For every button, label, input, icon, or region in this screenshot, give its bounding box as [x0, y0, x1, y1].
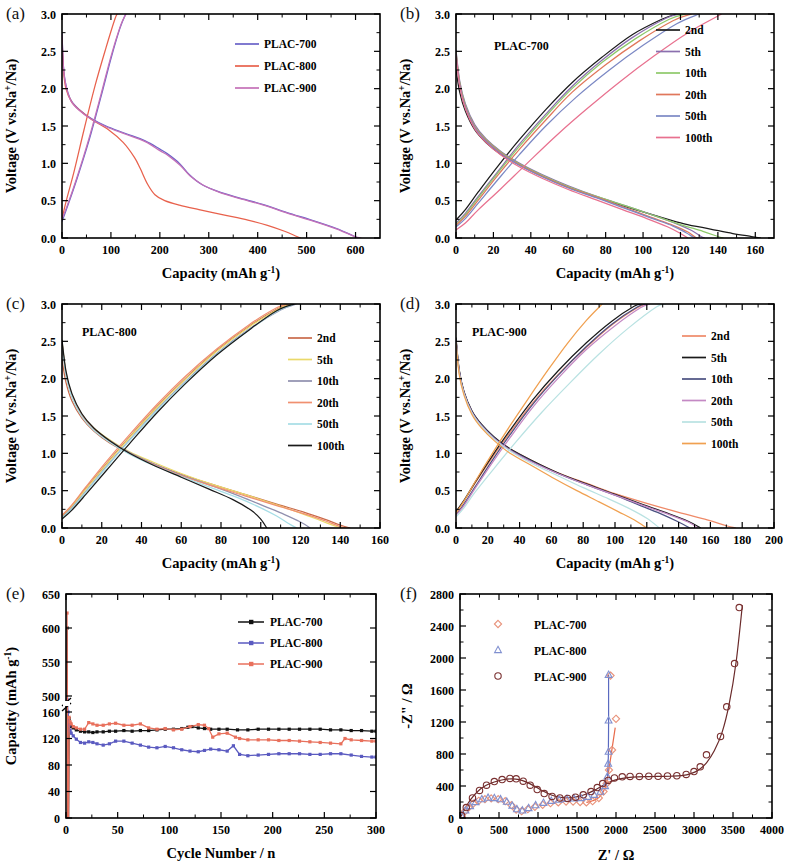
series-marker-PLAC-900: [83, 728, 86, 731]
fit-line-PLAC-900-fit: [461, 605, 743, 817]
ytick-label: 2400: [430, 620, 454, 634]
y-axis-title: Voltage (V vs.Na+/Na): [397, 348, 414, 483]
legend-marker-PLAC-800: [249, 641, 253, 645]
panel-f: 0500100015002000250030003500400004008001…: [394, 580, 788, 868]
xtick-label: 60: [562, 243, 574, 257]
xtick-label: 1500: [565, 823, 589, 837]
series-marker-PLAC-800: [308, 753, 311, 756]
curve-PLAC-800-charge: [62, 14, 117, 219]
legend-label-PLAC-800: PLAC-800: [534, 645, 587, 657]
curve-50th-charge: [456, 14, 699, 227]
series-marker-PLAC-900: [203, 724, 206, 727]
x-axis-title: Capacity (mAh g-1): [556, 265, 674, 282]
series-marker-PLAC-900: [217, 732, 220, 735]
legend-label-PLAC-700: PLAC-700: [534, 619, 587, 631]
ytick-label: 0.5: [435, 194, 450, 208]
curve-20th-discharge: [456, 341, 698, 528]
legend-label-PLAC-800: PLAC-800: [270, 637, 323, 649]
series-marker-PLAC-800: [139, 744, 142, 747]
curves-group: [62, 14, 361, 238]
series-marker-PLAC-700: [91, 731, 94, 734]
series-marker-PLAC-700: [350, 729, 353, 732]
ytick-label: 1.5: [41, 120, 56, 134]
xtick-label: 2000: [604, 823, 628, 837]
series-marker-PLAC-900: [102, 724, 105, 727]
series-marker-PLAC-900: [95, 724, 98, 727]
ytick-label: 2.0: [435, 82, 450, 96]
curve-5th-discharge: [62, 341, 344, 528]
panel-d: 0204060801001201401601802000.00.51.01.52…: [394, 290, 788, 579]
legend-label-2nd: 2nd: [685, 24, 704, 36]
series-marker-PLAC-800: [217, 748, 220, 751]
data-point-PLAC-900: [703, 752, 709, 758]
curve-100th-discharge: [456, 343, 647, 528]
series-marker-PLAC-700: [329, 728, 332, 731]
xtick-label: 150: [212, 823, 230, 837]
ytick-label: 1.5: [41, 410, 56, 424]
series-marker-PLAC-900: [180, 728, 183, 731]
series-marker-PLAC-900: [319, 741, 322, 744]
legend-label-10th: 10th: [685, 67, 707, 79]
x-axis-title: Capacity (mAh g-1): [162, 555, 280, 572]
panel-letter: (e): [6, 584, 25, 603]
legend-label-2nd: 2nd: [711, 330, 730, 342]
xtick-label: 0: [457, 823, 463, 837]
ytick-label: 550: [42, 656, 60, 670]
series-marker-PLAC-700: [122, 729, 125, 732]
series-marker-PLAC-900: [122, 724, 125, 727]
xtick-label: 160: [371, 533, 389, 547]
ytick-label: 1.5: [435, 120, 450, 134]
series-marker-PLAC-700: [246, 728, 249, 731]
legend-marker-PLAC-900: [495, 673, 501, 679]
series-marker-PLAC-900: [246, 738, 249, 741]
xtick-label: 40: [136, 533, 148, 547]
series-marker-PLAC-700: [139, 729, 142, 732]
data-point-PLAC-900: [731, 660, 737, 666]
ytick-label: 1.0: [435, 447, 450, 461]
panel-inline-title: PLAC-900: [472, 325, 527, 339]
panel-a: 01002003004005006000.00.51.01.52.02.53.0…: [0, 0, 394, 289]
xtick-label: 500: [490, 823, 508, 837]
series-marker-PLAC-800: [95, 742, 98, 745]
panel-inline-title: PLAC-700: [494, 39, 549, 53]
series-marker-PLAC-800: [102, 744, 105, 747]
legend-label-5th: 5th: [711, 352, 728, 364]
series-marker-PLAC-800: [180, 748, 183, 751]
nyquist-group: [458, 604, 742, 820]
legend-label-5th: 5th: [317, 354, 334, 366]
ytick-label: 1200: [430, 716, 454, 730]
xtick-label: 80: [577, 533, 589, 547]
axis-break-gap: [63, 701, 70, 706]
data-point-PLAC-700: [612, 715, 619, 722]
series-marker-PLAC-800: [131, 742, 134, 745]
legend-label-PLAC-700: PLAC-700: [264, 38, 317, 50]
ytick-label: 2.5: [435, 335, 450, 349]
series-marker-PLAC-900: [108, 722, 111, 725]
ytick-label: 1600: [430, 684, 454, 698]
xtick-label: 80: [215, 533, 227, 547]
series-marker-PLAC-900: [360, 739, 363, 742]
series-marker-PLAC-800: [238, 753, 241, 756]
y-axis-title: Capacity (mAh g-1): [3, 647, 20, 765]
curve-5th-charge: [456, 14, 680, 223]
series-marker-PLAC-700: [114, 730, 117, 733]
xtick-label: 40: [514, 533, 526, 547]
x-axis-title: Z' / Ω: [598, 847, 635, 863]
ytick-label: 3.0: [41, 8, 56, 22]
series-marker-PLAC-700: [257, 728, 260, 731]
x-axis-title-text: Capacity (mAh g-1): [162, 555, 280, 572]
ytick-label: 0.0: [435, 522, 450, 536]
ytick-label: 0.0: [41, 522, 56, 536]
series-marker-PLAC-800: [83, 742, 86, 745]
series-marker-PLAC-800: [319, 753, 322, 756]
y-axis-title: Voltage (V vs.Na+/Na): [397, 58, 414, 193]
data-point-PLAC-900: [736, 604, 742, 610]
figure-root: 01002003004005006000.00.51.01.52.02.53.0…: [0, 0, 788, 868]
series-marker-PLAC-900: [188, 725, 191, 728]
series-marker-PLAC-700: [131, 730, 134, 733]
ytick-label: 1.0: [41, 447, 56, 461]
series-marker-PLAC-900: [350, 738, 353, 741]
series-marker-PLAC-900: [79, 728, 82, 731]
series-marker-PLAC-800: [114, 740, 117, 743]
series-marker-PLAC-800: [197, 750, 200, 753]
